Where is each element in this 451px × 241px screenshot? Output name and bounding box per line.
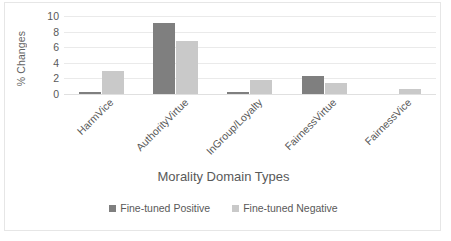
x-tick-label: FairnessVirtue xyxy=(283,96,339,152)
bar xyxy=(79,92,101,94)
x-tick-label: AuthorityVirtue xyxy=(133,96,190,153)
plot-area xyxy=(64,16,436,94)
y-tick-label-0: 0 xyxy=(33,89,59,100)
legend-item[interactable]: Fine-tuned Negative xyxy=(232,202,338,214)
y-axis-tick-labels: 0246810 xyxy=(33,12,59,98)
bar-group xyxy=(64,16,138,94)
chart-container: % Changes 0246810 HarmViceAuthorityVirtu… xyxy=(4,2,441,231)
legend-swatch-icon xyxy=(232,205,239,212)
bar-group xyxy=(138,16,212,94)
bars-layer xyxy=(64,16,436,94)
bar xyxy=(227,92,249,94)
bar-group xyxy=(213,16,287,94)
legend-swatch-icon xyxy=(109,205,116,212)
x-tick-label: FairnessVice xyxy=(362,96,413,147)
legend-item[interactable]: Fine-tuned Positive xyxy=(109,202,210,214)
y-axis-title: % Changes xyxy=(11,17,31,101)
chart-legend: Fine-tuned PositiveFine-tuned Negative xyxy=(5,202,442,214)
x-axis-tick-labels: HarmViceAuthorityVirtueInGroup/LoyaltyFa… xyxy=(64,96,436,158)
x-axis-title: Morality Domain Types xyxy=(5,169,442,184)
bar xyxy=(176,41,198,94)
y-tick-label-8: 8 xyxy=(33,26,59,37)
x-tick-label: InGroup/Loyalty xyxy=(204,96,265,157)
bar xyxy=(302,76,324,94)
y-axis-title-text: % Changes xyxy=(15,31,27,86)
bar xyxy=(399,89,421,94)
legend-label: Fine-tuned Negative xyxy=(243,202,338,214)
gridline-0 xyxy=(64,94,436,95)
y-tick-label-2: 2 xyxy=(33,73,59,84)
bar xyxy=(153,23,175,94)
bar xyxy=(250,80,272,94)
x-tick-label: HarmVice xyxy=(75,96,116,137)
bar xyxy=(325,83,347,94)
legend-label: Fine-tuned Positive xyxy=(120,202,210,214)
bar xyxy=(102,71,124,94)
bar-group xyxy=(362,16,436,94)
y-tick-label-4: 4 xyxy=(33,58,59,69)
bar-group xyxy=(287,16,361,94)
y-tick-label-10: 10 xyxy=(33,11,59,22)
y-tick-label-6: 6 xyxy=(33,42,59,53)
